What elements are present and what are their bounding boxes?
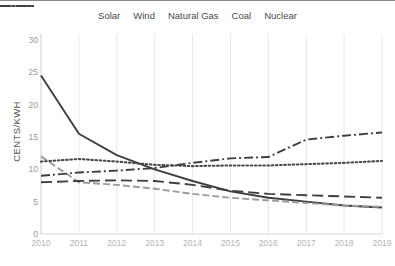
series-line-natural-gas <box>41 180 382 197</box>
x-axis-tick-label: 2018 <box>324 238 364 248</box>
x-axis-tick-label: 2012 <box>97 238 137 248</box>
x-axis-tick-label: 2010 <box>21 238 61 248</box>
x-axis-tick-label: 2011 <box>59 238 99 248</box>
legend-label: Coal <box>232 11 252 21</box>
x-axis-tick-label: 2013 <box>135 238 175 248</box>
x-axis-tick-label: 2015 <box>210 238 250 248</box>
x-axis-tick-label: 2019 <box>362 238 395 248</box>
x-axis-tick-label: 2014 <box>173 238 213 248</box>
legend-item-solar[interactable]: Solar <box>98 11 120 21</box>
chart-legend: SolarWindNatural GasCoalNuclear <box>0 0 395 31</box>
x-axis-tick-label: 2016 <box>248 238 288 248</box>
plot-svg <box>0 30 395 266</box>
legend-label: Nuclear <box>264 11 297 21</box>
legend-item-coal[interactable]: Coal <box>232 11 252 21</box>
legend-label: Natural Gas <box>168 11 219 21</box>
legend-item-wind[interactable]: Wind <box>133 11 155 21</box>
legend-label: Wind <box>133 11 155 21</box>
legend-label: Solar <box>98 11 120 21</box>
plot-area: CENTS/KWH 051015202530 20102011201220132… <box>0 30 395 266</box>
legend-item-nuclear[interactable]: Nuclear <box>264 11 297 21</box>
line-dashdot-icon <box>0 1 34 11</box>
x-axis-tick-label: 2017 <box>286 238 326 248</box>
legend-item-natural-gas[interactable]: Natural Gas <box>168 11 219 21</box>
energy-cost-line-chart: SolarWindNatural GasCoalNuclear CENTS/KW… <box>0 0 395 266</box>
series-line-nuclear <box>41 132 382 175</box>
